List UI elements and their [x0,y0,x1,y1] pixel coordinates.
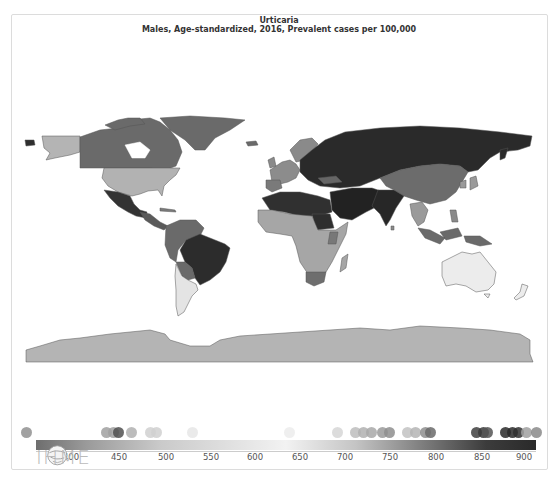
tick-label: 700 [337,452,353,462]
region-new-zealand[interactable] [514,284,528,300]
region-caribbean[interactable] [160,208,176,212]
tick-label: 500 [158,452,174,462]
region-alaska[interactable] [42,136,80,160]
region-uk[interactable] [268,157,276,168]
tick-label: 850 [474,452,490,462]
region-central-america[interactable] [140,212,168,230]
tick-label: 900 [516,452,532,462]
legend-dot [113,427,124,438]
region-japan[interactable] [470,176,478,190]
region-philippines[interactable] [450,210,458,222]
legend-dot [531,427,542,438]
region-south-africa[interactable] [306,272,326,286]
region-india[interactable] [372,190,404,226]
region-australia[interactable] [442,252,496,292]
region-sri-lanka[interactable] [391,226,394,230]
tick-label: 750 [382,452,398,462]
region-madagascar[interactable] [340,254,348,272]
region-kamchatka[interactable] [500,148,508,160]
region-indonesia[interactable] [418,228,492,246]
legend-dot [384,427,395,438]
legend-dot [126,427,137,438]
world-map [0,0,558,480]
legend-dot [425,427,436,438]
legend-dot [151,427,162,438]
legend-distribution-dots [0,426,558,440]
tick-label: 600 [247,452,263,462]
region-tasmania[interactable] [484,294,490,298]
colorbar [36,440,536,450]
tick-label: 450 [111,452,127,462]
tick-label: 550 [203,452,219,462]
legend-dot [482,427,493,438]
region-kenya[interactable] [328,232,338,244]
legend-dot [187,427,198,438]
legend-dot [284,427,295,438]
tick-label: 650 [292,452,308,462]
legend-dot [21,427,32,438]
region-iberia[interactable] [266,180,282,192]
ihme-logo-text: IHME [36,445,91,469]
legend-dot [366,427,377,438]
region-aleutian[interactable] [25,140,35,146]
region-iceland[interactable] [246,141,258,146]
region-antarctica[interactable] [26,326,533,362]
region-southeast-asia[interactable] [410,202,428,226]
legend-dot [332,427,343,438]
tick-label: 800 [428,452,444,462]
